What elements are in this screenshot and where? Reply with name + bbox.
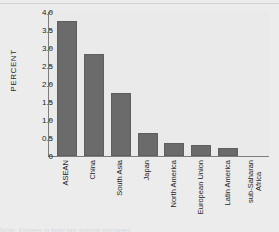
bar bbox=[57, 21, 77, 156]
bar-slot bbox=[82, 12, 107, 156]
bar bbox=[191, 145, 211, 156]
bar-slot bbox=[189, 12, 214, 156]
caption-sliver: Note: Figures in bold are annual average… bbox=[0, 226, 279, 232]
bar bbox=[138, 133, 158, 156]
x-tick-label: ASEAN bbox=[62, 160, 70, 185]
x-tick-label: Japan bbox=[143, 160, 151, 180]
bar-series bbox=[49, 12, 269, 156]
bar bbox=[218, 148, 238, 156]
x-tick-label: North America bbox=[170, 160, 178, 208]
bar-slot bbox=[109, 12, 134, 156]
x-tick-slot: Japan bbox=[135, 158, 160, 228]
x-tick-slot: South Asia bbox=[108, 158, 133, 228]
x-tick-slot: Latin America bbox=[215, 158, 240, 228]
page-top-rule bbox=[0, 3, 279, 4]
x-tick-slot: sub-Saharan Africa bbox=[242, 158, 267, 228]
plot-area: 4.03.53.02.52.01.51.00.50 bbox=[48, 12, 269, 157]
x-tick-label: South Asia bbox=[116, 160, 124, 196]
x-tick-label: China bbox=[89, 160, 97, 180]
x-tick-label: European Union bbox=[197, 160, 205, 214]
bar bbox=[164, 143, 184, 156]
bar-slot bbox=[55, 12, 80, 156]
x-tick-slot: ASEAN bbox=[54, 158, 79, 228]
bar bbox=[84, 54, 104, 156]
bar-slot bbox=[162, 12, 187, 156]
x-tick-slot: European Union bbox=[188, 158, 213, 228]
y-axis-label: PERCENT bbox=[9, 36, 18, 106]
x-tick-slot: China bbox=[81, 158, 106, 228]
bar bbox=[111, 93, 131, 156]
bar-slot bbox=[216, 12, 241, 156]
bar-slot bbox=[242, 12, 267, 156]
bar-slot bbox=[135, 12, 160, 156]
x-tick-label: Latin America bbox=[224, 160, 232, 205]
x-tick-label: sub-Saharan Africa bbox=[247, 160, 263, 203]
chart-figure: PERCENT 4.03.53.02.52.01.51.00.50 ASEANC… bbox=[0, 0, 279, 232]
x-tick-slot: North America bbox=[162, 158, 187, 228]
x-axis-tick-labels: ASEANChinaSouth AsiaJapanNorth AmericaEu… bbox=[48, 158, 269, 228]
